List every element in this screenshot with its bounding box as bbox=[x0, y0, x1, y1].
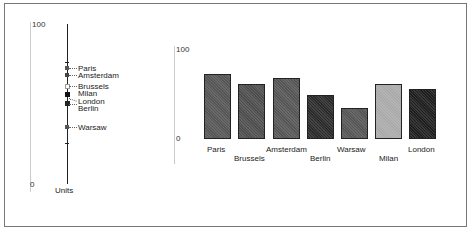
bar-label: Milan bbox=[379, 154, 398, 163]
strip-tick-100: 100 bbox=[32, 20, 45, 29]
bar-milan bbox=[375, 84, 402, 139]
bar-paris bbox=[204, 74, 231, 139]
bar-warsaw bbox=[341, 108, 368, 139]
leader-line bbox=[69, 86, 77, 87]
bar-label: Paris bbox=[207, 145, 225, 154]
strip-tick-mark bbox=[65, 62, 69, 63]
bar-y-axis bbox=[174, 46, 175, 164]
leader-line bbox=[69, 75, 77, 76]
strip-axis-label: Units bbox=[55, 186, 73, 195]
point-label: Amsterdam bbox=[78, 71, 119, 80]
strip-tick-0: 0 bbox=[30, 180, 34, 189]
bar-label: London bbox=[408, 145, 435, 154]
bar-amsterdam bbox=[273, 78, 300, 139]
point-label: Berlin bbox=[78, 104, 98, 113]
leader-line bbox=[69, 68, 77, 69]
point-milan bbox=[65, 92, 70, 97]
bar-brussels bbox=[238, 84, 265, 139]
bar-label: Berlin bbox=[310, 154, 330, 163]
strip-y-axis bbox=[30, 22, 31, 192]
bar-tick-0: 0 bbox=[176, 134, 180, 143]
bar-berlin bbox=[307, 95, 334, 139]
bar-london bbox=[409, 89, 436, 139]
leader-line bbox=[69, 127, 77, 128]
strip-tick-mark bbox=[65, 143, 69, 144]
bar-label: Amsterdam bbox=[266, 145, 307, 154]
bar-label: Warsaw bbox=[337, 145, 366, 154]
bar-label: Brussels bbox=[234, 154, 265, 163]
bar-tick-100: 100 bbox=[176, 45, 189, 54]
point-label: Warsaw bbox=[78, 123, 107, 132]
leader-line bbox=[69, 104, 77, 105]
